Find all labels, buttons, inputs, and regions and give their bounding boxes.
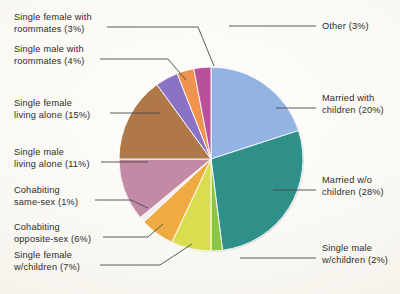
pie-slices-group	[119, 67, 303, 251]
callout-single-male-with-roommates: Single male with roommates (4%)	[14, 44, 102, 67]
callout-single-male-with-children: Single male w/children (2%)	[322, 243, 398, 266]
callout-single-male-living-alone: Single male living alone (11%)	[14, 147, 104, 170]
callout-single-female-with-roommates: Single female with roommates (3%)	[14, 12, 110, 35]
callout-cohabiting-same-sex: Cohabiting same-sex (1%)	[14, 185, 98, 208]
callout-married-with-children: Married with children (20%)	[322, 93, 398, 116]
callout-single-female-living-alone: Single female living alone (15%)	[14, 98, 110, 121]
callout-cohabiting-opposite-sex: Cohabiting opposite-sex (6%)	[14, 222, 106, 245]
callout-married-wo-children: Married w/o children (28%)	[322, 175, 398, 198]
callout-single-female-with-children: Single female w/children (7%)	[14, 250, 104, 273]
callout-other: Other (3%)	[322, 21, 398, 33]
leader-single-female-children	[100, 244, 192, 265]
pie-chart-figure: Single female with roommates (3%) Single…	[0, 0, 400, 294]
leader-single-female-roommates	[107, 27, 214, 66]
